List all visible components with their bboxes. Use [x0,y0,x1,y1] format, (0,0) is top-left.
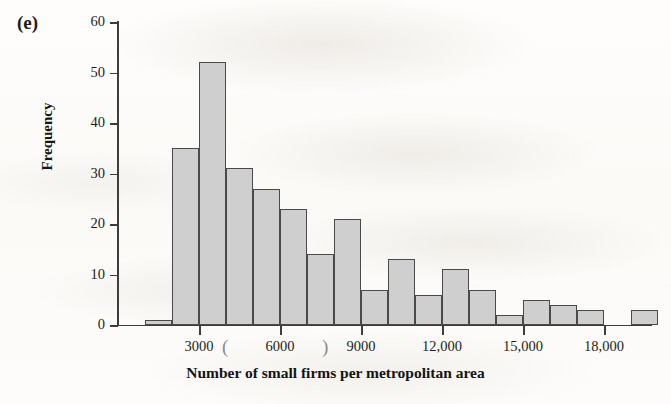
x-axis-tick-label: 18,000 [584,338,624,355]
y-axis-tick [110,123,118,125]
plot-area [118,22,658,325]
y-axis-tick-label: 30 [61,165,105,182]
histogram-bar [496,315,523,325]
x-axis-tick-label: 12,000 [422,338,462,355]
histogram-bar [280,209,307,325]
y-axis-tick-label: 50 [61,64,105,81]
histogram-figure: (e) Frequency 0102030405060 300060009000… [0,0,671,404]
histogram-bar [307,254,334,325]
scan-artifact-mark: ) [322,336,328,358]
scan-artifact-mark: ( [222,336,228,358]
y-axis-title: Frequency [39,77,56,197]
x-axis-tick [280,326,282,335]
panel-label: (e) [17,12,38,34]
histogram-bar [523,300,550,325]
x-axis-tick [523,326,525,335]
y-axis-tick-label: 20 [61,215,105,232]
x-axis-tick-label: 15,000 [503,338,543,355]
y-axis-tick [110,174,118,176]
x-axis-tick-label: 6000 [266,338,295,355]
x-axis-tick [604,326,606,335]
x-axis-tick [361,326,363,335]
y-axis-tick-label: 60 [61,13,105,30]
histogram-bar [226,168,253,325]
x-axis-tick-label: 9000 [347,338,376,355]
y-axis-tick [110,325,118,327]
y-axis-tick [110,22,118,24]
x-axis-tick-label: 3000 [185,338,214,355]
histogram-bar [469,290,496,325]
histogram-bar [253,189,280,325]
x-axis-tick [199,326,201,335]
histogram-bar [199,62,226,325]
histogram-bar [172,148,199,325]
histogram-bar [145,320,172,325]
x-axis-title: Number of small firms per metropolitan a… [0,364,671,382]
y-axis-tick-label: 40 [61,114,105,131]
histogram-bar [334,219,361,325]
y-axis-tick [110,73,118,75]
x-axis-tick [442,326,444,335]
y-axis-tick [110,224,118,226]
histogram-bar [550,305,577,325]
y-axis-tick [110,275,118,277]
y-axis-tick-label: 10 [61,266,105,283]
histogram-bar [388,259,415,325]
histogram-bar [577,310,604,325]
histogram-bar [361,290,388,325]
y-axis-tick-label: 0 [61,316,105,333]
histogram-bar [631,310,658,325]
histogram-bar [442,269,469,325]
histogram-bar [415,295,442,325]
